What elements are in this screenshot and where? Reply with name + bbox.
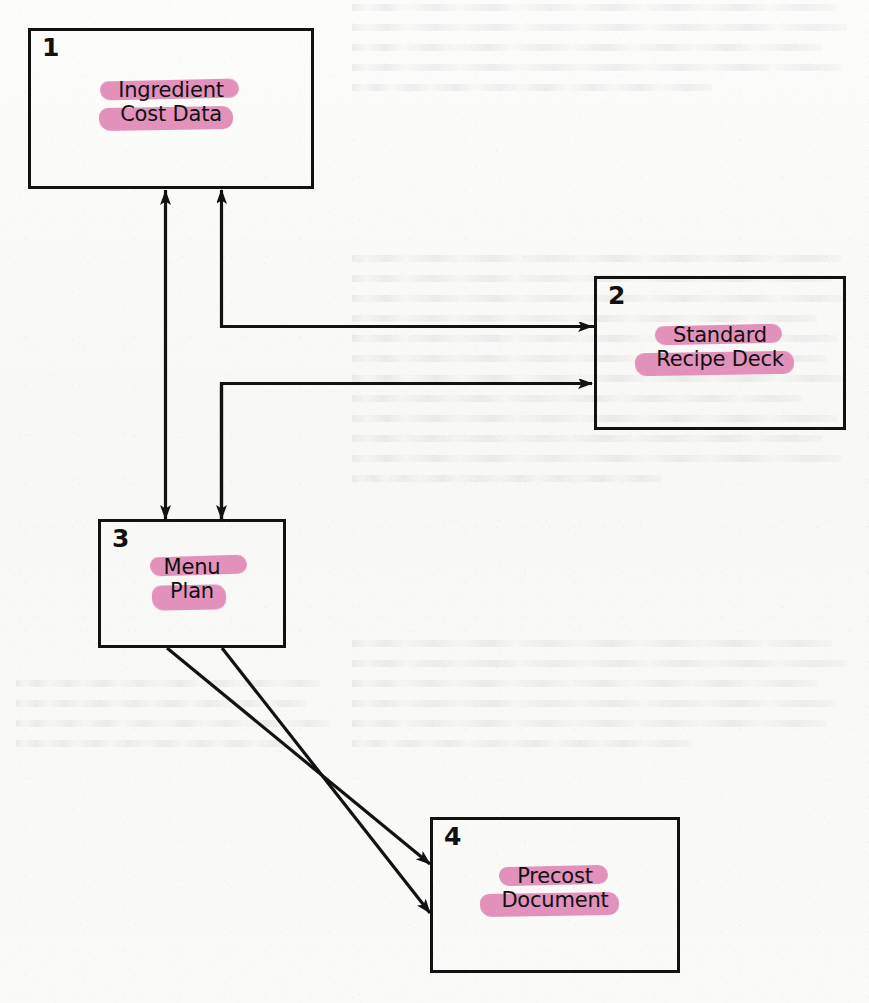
bleed-through-text-top-right bbox=[352, 4, 852, 104]
node-label-1-line-2: Cost Data bbox=[118, 102, 224, 126]
node-label-1: Ingredient Cost Data bbox=[31, 78, 311, 127]
node-number-4: 4 bbox=[444, 824, 461, 849]
node-label-3-line-1: Menu bbox=[162, 555, 223, 579]
connector-node3-node1 bbox=[222, 190, 595, 327]
node-label-1-line-1: Ingredient bbox=[116, 78, 226, 102]
node-label-2-line-2: Recipe Deck bbox=[654, 347, 785, 371]
node-box-2[interactable]: 2 Standard Recipe Deck bbox=[594, 276, 846, 430]
connector-node3-node4-lower bbox=[222, 648, 430, 913]
node-number-2: 2 bbox=[608, 283, 625, 308]
diagram-page: 1 Ingredient Cost Data 2 Standard Recipe… bbox=[0, 0, 869, 1003]
node-label-4: Precost Document bbox=[433, 864, 677, 913]
node-box-3[interactable]: 3 Menu Plan bbox=[98, 519, 286, 648]
connector-node3-node4-upper bbox=[167, 648, 430, 864]
node-label-2-line-1: Standard bbox=[671, 323, 769, 347]
node-number-1: 1 bbox=[42, 35, 59, 60]
node-box-1[interactable]: 1 Ingredient Cost Data bbox=[28, 28, 314, 189]
node-number-3: 3 bbox=[112, 526, 129, 551]
node-label-4-line-2: Document bbox=[499, 888, 610, 912]
node-label-2: Standard Recipe Deck bbox=[597, 323, 843, 372]
connector-node3-node2 bbox=[222, 384, 593, 520]
bleed-through-text-lower-right bbox=[352, 640, 852, 760]
bleed-through-text-left-lower bbox=[16, 680, 346, 760]
node-label-3: Menu Plan bbox=[101, 555, 283, 604]
node-label-3-line-2: Plan bbox=[168, 579, 216, 603]
node-box-4[interactable]: 4 Precost Document bbox=[430, 817, 680, 973]
node-label-4-line-1: Precost bbox=[515, 864, 595, 888]
